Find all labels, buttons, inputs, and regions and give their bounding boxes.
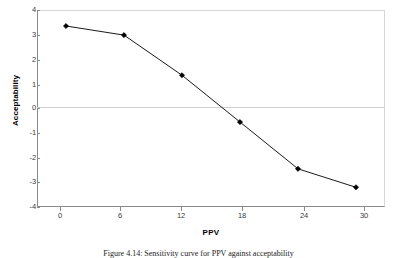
series-plot [0,0,397,232]
data-point-1 [121,33,126,38]
line-chart: 4 3 2 1 0 -1 -2 -3 -4 0 6 12 18 24 30 Ac… [0,0,397,232]
data-point-0 [63,23,68,28]
series-markers-group [63,23,358,189]
series-line-path [66,26,356,187]
figure-caption: Figure 4.14: Sensitivity curve for PPV a… [0,249,397,258]
data-point-5 [353,185,358,190]
